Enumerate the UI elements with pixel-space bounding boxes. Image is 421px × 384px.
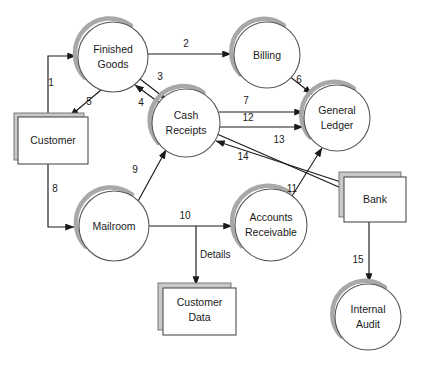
cash-receipts-label-1: Cash [174,109,199,121]
flow-label-10: 10 [179,210,191,221]
process-accounts-receivable[interactable]: Accounts Receivable [232,186,307,261]
flow-label-2: 2 [183,38,189,49]
internal-audit-label-1: Internal [350,303,385,315]
finished-goods-label-2: Goods [98,58,129,70]
customer-label: Customer [30,134,76,146]
general-ledger-label-1: General [318,104,355,116]
flow-label-13: 13 [273,134,285,145]
store-customer-data[interactable]: Customer Data [158,283,236,335]
flow-label-1: 1 [48,77,54,88]
general-ledger-label-2: Ledger [321,119,354,131]
entity-customer[interactable]: Customer [14,113,88,164]
flow-label-3: 3 [157,71,163,82]
flow-label-12: 12 [242,112,254,123]
internal-audit-label-2: Audit [356,318,380,330]
flow-label-8: 8 [52,183,58,194]
flow-line-8 [48,164,74,227]
flow-label-5: 5 [86,96,92,107]
cash-receipts-label-2: Receipts [166,124,207,136]
process-internal-audit[interactable]: Internal Audit [332,281,401,350]
accounts-receivable-label-2: Receivable [245,226,297,238]
flow-line-9 [137,150,166,203]
process-cash-receipts[interactable]: Cash Receipts [150,86,220,157]
entity-bank[interactable]: Bank [339,172,406,222]
flow-label-11: 11 [287,183,298,194]
mailroom-label: Mailroom [92,220,135,232]
process-mailroom[interactable]: Mailroom [76,187,149,261]
flow-label-7: 7 [243,95,249,106]
accounts-receivable-label-1: Accounts [249,211,292,223]
customer-data-label-2: Data [188,311,210,323]
billing-label: Billing [253,49,281,61]
process-billing[interactable]: Billing [231,19,300,88]
flow-label-6: 6 [296,74,302,85]
process-general-ledger[interactable]: General Ledger [301,82,370,151]
flow-label-details: Details [200,249,231,260]
bank-label: Bank [363,193,388,205]
flow-label-4: 4 [138,97,144,108]
data-flow-diagram: Customer Bank Customer Data Finished Goo… [0,0,421,384]
dfd-canvas: Customer Bank Customer Data Finished Goo… [0,0,421,384]
flow-label-14: 14 [237,151,249,162]
flow-label-15: 15 [352,254,364,265]
process-finished-goods[interactable]: Finished Goods [75,18,148,92]
finished-goods-label-1: Finished [93,43,133,55]
customer-data-label-1: Customer [177,296,223,308]
flow-label-9: 9 [132,164,138,175]
